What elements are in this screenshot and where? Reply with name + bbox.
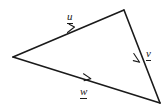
arrow-marker-v-icon xyxy=(133,54,139,63)
vector-label-u-text: u xyxy=(67,11,73,24)
vector-label-v-text: v xyxy=(146,48,151,61)
vector-label-w-text: w xyxy=(80,86,87,99)
triangle-side-v xyxy=(124,10,160,103)
vector-label-v: v xyxy=(146,48,151,61)
vector-triangle-diagram: u v w xyxy=(0,0,167,110)
vector-label-w: w xyxy=(80,86,87,99)
vector-label-u: u xyxy=(67,11,73,24)
